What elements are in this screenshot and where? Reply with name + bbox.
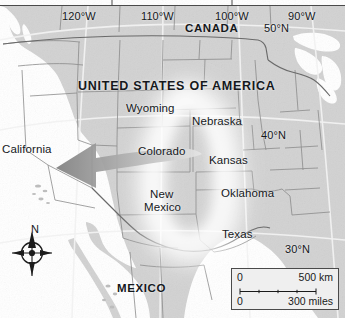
state-label-colorado: Colorado [138,145,185,157]
scale-miles-zero: 0 [237,295,243,307]
graticule-label-100w: 100°W [215,10,249,22]
state-label-new-mexico-line1: New [150,188,173,200]
scale-bar: 0 500 km 0 300 miles [231,268,339,310]
country-label-canada: CANADA [185,22,238,34]
compass-north-label: N [31,223,39,235]
country-label-mexico: MEXICO [117,282,166,294]
state-label-kansas: Kansas [209,154,248,166]
scale-km-value: 500 km [299,271,333,283]
scale-miles-value: 300 miles [288,295,333,307]
graticule-label-30n: 30°N [285,243,310,255]
state-label-new-mexico-line2: Mexico [144,201,181,213]
graticule-label-90w: 90°W [288,10,315,22]
state-label-wyoming: Wyoming [126,102,175,114]
state-label-texas: Texas [222,228,253,240]
graticule-label-110w: 110°W [141,10,174,22]
state-label-nebraska: Nebraska [192,115,242,127]
map-figure: 120°W 110°W 100°W 90°W 50°N 40°N 30°N CA… [0,0,345,318]
map-title-united-states: UNITED STATES OF AMERICA [78,79,276,93]
state-label-california: California [2,143,52,155]
graticule-label-40n: 40°N [261,129,286,141]
scale-ruler [239,288,317,295]
state-label-oklahoma: Oklahoma [221,187,274,199]
graticule-label-50n: 50°N [264,22,289,34]
scale-km-zero: 0 [237,271,243,283]
graticule-label-120w: 120°W [62,10,96,22]
